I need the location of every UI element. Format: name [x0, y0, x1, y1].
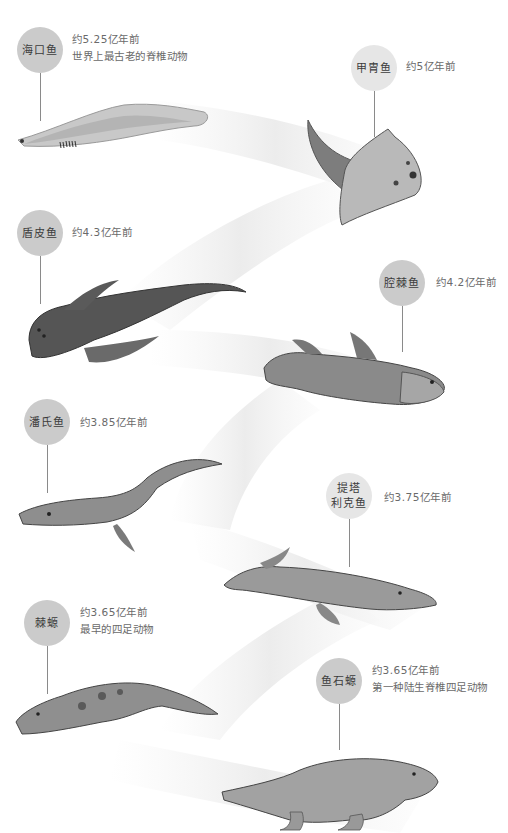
species-name: 盾皮鱼: [22, 226, 58, 241]
species-date: 约3.65亿年前: [372, 662, 488, 679]
species-name: 鱼石螈: [321, 674, 357, 689]
species-badge: 海口鱼: [17, 27, 63, 73]
species-date: 约5亿年前: [406, 58, 455, 75]
haikouichthys-illustration: [14, 100, 214, 152]
species-info: 约3.85亿年前: [80, 414, 147, 431]
species-name-line1: 提塔: [337, 481, 361, 496]
species-date: 约5.25亿年前: [72, 31, 188, 48]
connector-line: [339, 704, 340, 750]
species-badge: 鱼石螈: [316, 658, 362, 704]
species-note: 第一种陆生脊椎四足动物: [372, 679, 488, 696]
species-info: 约3.65亿年前 第一种陆生脊椎四足动物: [372, 662, 488, 696]
placoderm-illustration: [24, 270, 249, 370]
ichthyostega-illustration: [220, 752, 445, 832]
species-name: 棘螈: [35, 616, 59, 631]
species-info: 约5亿年前: [406, 58, 455, 75]
species-date: 约4.2亿年前: [436, 274, 496, 291]
ostracoderm-illustration: [300, 115, 430, 230]
species-badge: 盾皮鱼: [17, 210, 63, 256]
species-date: 约3.65亿年前: [80, 604, 154, 621]
species-date: 约3.75亿年前: [384, 489, 451, 506]
tiktaalik-illustration: [220, 545, 442, 625]
species-info: 约3.65亿年前 最早的四足动物: [80, 604, 154, 638]
species-badge: 腔棘鱼: [379, 260, 425, 306]
species-info: 约4.2亿年前: [436, 274, 496, 291]
species-badge: 潘氏鱼: [24, 399, 70, 445]
coelacanth-illustration: [262, 330, 452, 410]
acanthostega-illustration: [12, 672, 222, 742]
species-name: 潘氏鱼: [29, 415, 65, 430]
species-name: 海口鱼: [22, 43, 58, 58]
species-info: 约3.75亿年前: [384, 489, 451, 506]
species-note: 世界上最古老的脊椎动物: [72, 48, 188, 65]
species-badge: 甲胄鱼: [351, 45, 397, 91]
species-badge: 提塔 利克鱼: [326, 473, 372, 519]
species-name: 腔棘鱼: [384, 276, 420, 291]
species-info: 约4.3亿年前: [72, 224, 132, 241]
species-name-line2: 利克鱼: [331, 496, 367, 511]
species-badge: 棘螈: [24, 600, 70, 646]
evolution-timeline: 海口鱼 约5.25亿年前 世界上最古老的脊椎动物 甲胄鱼 约5亿年前: [0, 0, 508, 833]
species-name: 甲胄鱼: [356, 61, 392, 76]
species-date: 约3.85亿年前: [80, 414, 147, 431]
species-note: 最早的四足动物: [80, 621, 154, 638]
species-date: 约4.3亿年前: [72, 224, 132, 241]
panderichthys-illustration: [17, 452, 227, 557]
species-info: 约5.25亿年前 世界上最古老的脊椎动物: [72, 31, 188, 65]
